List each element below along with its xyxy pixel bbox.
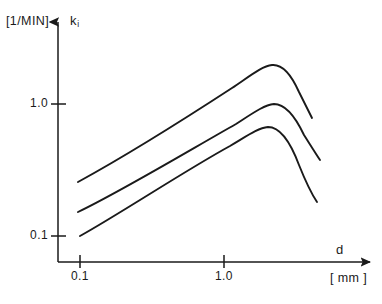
y-axis-quantity-subscript: i [77,19,79,29]
plot-canvas [0,0,382,304]
y-tick-label-1: 1.0 [8,97,48,109]
curve-middle [78,104,320,212]
y-tick-label-0: 0.1 [8,229,48,241]
x-axis-unit-label: [ mm ] [330,272,367,285]
y-axis-quantity-label: ki [70,14,80,29]
x-tick-label-1: 1.0 [204,270,244,282]
x-axis-quantity-label: d [336,243,344,256]
curve-lower [80,127,317,236]
y-axis-unit-label: [1/MIN] [6,15,49,28]
figure-root: [1/MIN] ki 1.0 0.1 0.1 1.0 d [ mm ] [0,0,382,304]
curve-upper [78,65,312,182]
x-tick-label-0: 0.1 [60,270,100,282]
y-axis-quantity-symbol: k [70,13,77,28]
